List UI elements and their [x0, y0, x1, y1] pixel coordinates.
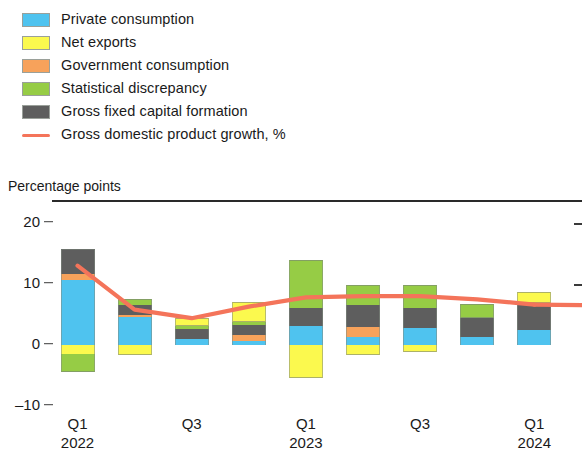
legend-line-icon-gdp-growth	[22, 128, 50, 142]
legend-label-net-exports: Net exports	[61, 35, 136, 50]
x-tick-quarter: Q1	[48, 415, 108, 434]
legend-label-gross-fixed-capital-formation: Gross fixed capital formation	[61, 104, 248, 119]
legend-label-government-consumption: Government consumption	[61, 58, 229, 73]
x-tick-label-3: Q3	[390, 415, 450, 434]
legend-swatch-private-consumption	[22, 13, 50, 27]
legend-label-gdp-growth: Gross domestic product growth, %	[61, 127, 286, 142]
x-tick-label-0: Q12022	[48, 415, 108, 453]
legend-item-private-consumption: Private consumption	[22, 8, 286, 31]
x-tick-quarter: Q1	[504, 415, 564, 434]
x-tick-quarter: Q1	[276, 415, 336, 434]
legend-item-net-exports: Net exports	[22, 31, 286, 54]
x-tick-quarter: Q3	[390, 415, 450, 434]
y-axis-title: Percentage points	[8, 178, 121, 194]
legend-item-gross-fixed-capital-formation: Gross fixed capital formation	[22, 100, 286, 123]
x-tick-label-2: Q12023	[276, 415, 336, 453]
legend-swatch-statistical-discrepancy	[22, 82, 50, 96]
legend-swatch-gross-fixed-capital-formation	[22, 105, 50, 119]
legend-item-statistical-discrepancy: Statistical discrepancy	[22, 77, 286, 100]
legend-item-government-consumption: Government consumption	[22, 54, 286, 77]
x-tick-year: 2023	[276, 434, 336, 453]
x-tick-label-1: Q3	[162, 415, 222, 434]
chart-legend: Private consumption Net exports Governme…	[22, 8, 286, 146]
gdp-growth-line-extension	[534, 305, 582, 306]
x-tick-quarter: Q3	[162, 415, 222, 434]
legend-label-statistical-discrepancy: Statistical discrepancy	[61, 81, 207, 96]
gdp-growth-line	[0, 200, 582, 415]
gdp-growth-line-path	[78, 266, 535, 319]
legend-swatch-net-exports	[22, 36, 50, 50]
chart-page: Private consumption Net exports Governme…	[0, 0, 582, 455]
legend-swatch-government-consumption	[22, 59, 50, 73]
x-tick-label-4: Q12024	[504, 415, 564, 453]
legend-label-private-consumption: Private consumption	[61, 12, 194, 27]
plot-area: 20100–10	[0, 200, 582, 415]
x-tick-year: 2022	[48, 434, 108, 453]
x-axis-labels: Q12022Q3Q12023Q3Q12024	[0, 415, 582, 455]
x-tick-year: 2024	[504, 434, 564, 453]
legend-item-gdp-growth: Gross domestic product growth, %	[22, 123, 286, 146]
